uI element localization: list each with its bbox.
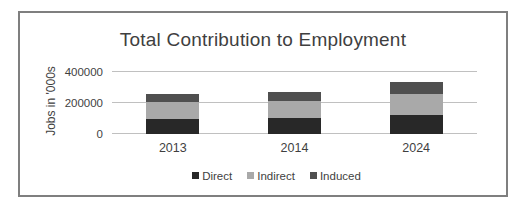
chart-title: Total Contribution to Employment [20,29,506,51]
bar-segment-direct-2013 [146,119,199,135]
chart-container: Total Contribution to Employment Jobs in… [18,11,508,197]
bar-2014 [268,72,321,134]
legend-item-direct: Direct [192,170,232,182]
bar-2013 [146,72,199,134]
x-axis-label-2013: 2013 [159,141,187,155]
x-axis-label-2014: 2014 [281,141,309,155]
bar-segment-indirect-2024 [390,94,443,115]
bar-segment-direct-2024 [390,115,443,134]
legend-marker-icon-induced [310,172,317,179]
bar-segment-induced-2014 [268,92,321,101]
screenshot-root: Total Contribution to Employment Jobs in… [0,0,525,209]
plot-area [112,72,477,134]
legend-label-direct: Direct [202,170,232,182]
bar-segment-indirect-2013 [146,102,199,118]
bar-segment-indirect-2014 [268,101,321,117]
legend-label-induced: Induced [320,170,361,182]
legend-item-indirect: Indirect [247,170,295,182]
x-axis-label-2024: 2024 [402,141,430,155]
legend-item-induced: Induced [310,170,361,182]
bar-segment-direct-2014 [268,118,321,134]
legend-marker-icon-direct [192,172,199,179]
legend-label-indirect: Indirect [257,170,295,182]
y-tick-label-200000: 200000 [43,96,103,110]
y-tick-label-400000: 400000 [43,65,103,79]
x-axis-labels: 201320142024 [112,141,477,155]
y-tick-label-0: 0 [43,127,103,141]
legend: DirectIndirectInduced [94,170,459,182]
bar-segment-induced-2024 [390,82,443,94]
bars-row [112,72,477,134]
bar-2024 [390,72,443,134]
bar-segment-induced-2013 [146,94,199,103]
legend-marker-icon-indirect [247,172,254,179]
